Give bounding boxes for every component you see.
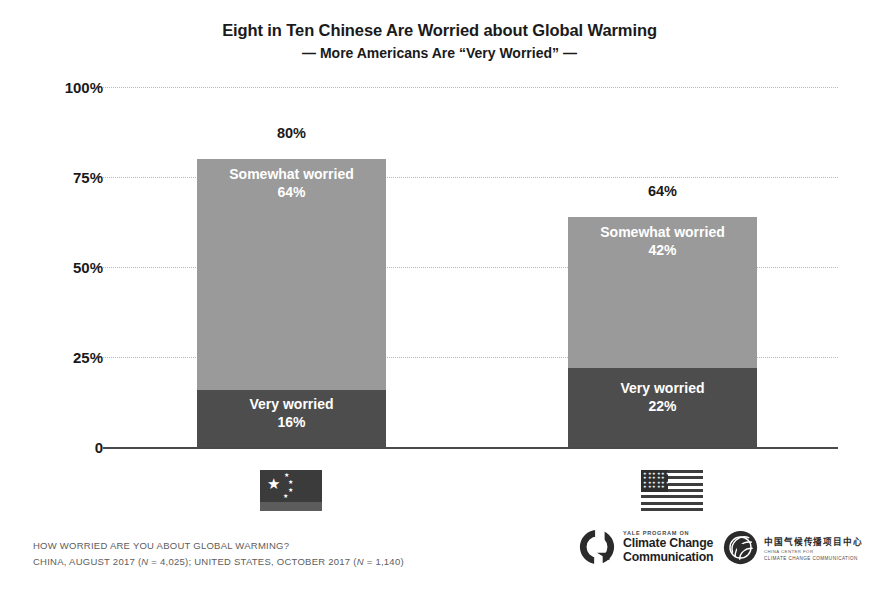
yale-line1: Climate Change (623, 537, 713, 551)
segment-name: Very worried (197, 396, 386, 414)
usa-flag-icon: ★★★★★★★★★★★★★★★★★★★★★★ (641, 470, 703, 511)
segment-name: Very worried (568, 380, 757, 398)
bar-total-label-united-states: 64% (568, 183, 757, 199)
flag-stripe (641, 495, 703, 498)
bar-segment-very-worried-united-states[interactable]: Very worried 22% (568, 368, 757, 447)
china-logo-chinese: 中国气候传播项目中心 (764, 535, 863, 547)
x-axis-baseline (103, 447, 838, 449)
footnote-source-b: = 4,025); UNITED STATES, OCTOBER 2017 ( (148, 556, 356, 567)
segment-name: Somewhat worried (568, 224, 757, 242)
ytick-label-75: 75% (31, 169, 103, 186)
flag-star-small: ★ (288, 479, 293, 485)
flag-stripe (641, 508, 703, 511)
yale-line2: Communication (623, 551, 713, 565)
bar-segment-somewhat-worried-china[interactable]: Somewhat worried 64% (197, 159, 386, 390)
china-logo-text: 中国气候传播项目中心 CHINA CENTER FOR CLIMATE CHAN… (764, 535, 863, 561)
ytick-label-50: 50% (31, 259, 103, 276)
segment-name: Somewhat worried (197, 166, 386, 184)
flag-star-small: ★ (284, 472, 289, 478)
china-logo-english: CLIMATE CHANGE COMMUNICATION (764, 556, 863, 561)
segment-value: 16% (197, 414, 386, 432)
yale-circle-mark (578, 528, 616, 566)
china-center-logo: 中国气候传播项目中心 CHINA CENTER FOR CLIMATE CHAN… (723, 530, 863, 565)
yale-logo-text: YALE PROGRAM ON Climate Change Communica… (623, 530, 713, 564)
ytick-label-100: 100% (31, 79, 103, 96)
ytick-label-0: 0 (31, 439, 103, 456)
china-swirl-mark (723, 530, 758, 565)
segment-value: 42% (568, 242, 757, 260)
bar-total-label-china: 80% (197, 125, 386, 141)
footnote-source-c: = 1,140) (364, 556, 404, 567)
flag-canton: ★★★★★★★★★★★★★★★★★★★★★★ (641, 470, 668, 492)
flag-star-small: ★ (288, 487, 293, 493)
gridline-100 (103, 87, 838, 88)
flag-band (260, 502, 322, 511)
flag-star-large: ★ (267, 476, 280, 491)
ytick-label-25: 25% (31, 349, 103, 366)
flag-stripe (641, 502, 703, 505)
flag-star-small: ★ (283, 493, 288, 499)
china-flag-icon: ★ ★ ★ ★ ★ (260, 470, 322, 511)
footnote-source-a: CHINA, AUGUST 2017 ( (33, 556, 141, 567)
bar-segment-somewhat-worried-united-states[interactable]: Somewhat worried 42% (568, 217, 757, 368)
china-logo-english-small: CHINA CENTER FOR (764, 549, 863, 554)
segment-value: 22% (568, 398, 757, 416)
footnote-question: HOW WORRIED ARE YOU ABOUT GLOBAL WARMING… (33, 538, 404, 554)
bar-segment-very-worried-china[interactable]: Very worried 16% (197, 390, 386, 447)
chart-plot-area: 100% 75% 50% 25% 0 80% Somewhat worried … (0, 0, 879, 615)
chart-footnote: HOW WORRIED ARE YOU ABOUT GLOBAL WARMING… (33, 538, 404, 569)
yale-program-logo: YALE PROGRAM ON Climate Change Communica… (578, 528, 713, 566)
segment-value: 64% (197, 184, 386, 202)
footnote-n-symbol: N (357, 556, 364, 567)
footnote-source: CHINA, AUGUST 2017 (N = 4,025); UNITED S… (33, 554, 404, 570)
